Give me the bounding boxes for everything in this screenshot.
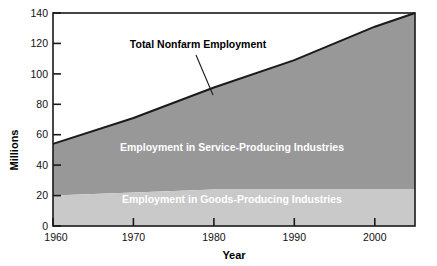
chart-figure: 0 20 40 60 80 100 120 140 1960 1970 1980… — [0, 0, 437, 266]
series-label-service-producing: Employment in Service-Producing Industri… — [120, 141, 344, 153]
y-tick-label: 40 — [36, 159, 48, 171]
x-tick-label: 1970 — [122, 231, 146, 243]
y-tick-label: 20 — [36, 189, 48, 201]
x-tick-label: 2000 — [363, 231, 387, 243]
x-tick-label: 1960 — [44, 231, 68, 243]
y-tick-label: 0 — [42, 220, 48, 232]
x-tick-label: 1990 — [283, 231, 307, 243]
x-tick-label: 1980 — [202, 231, 226, 243]
y-axis-title: Millions — [8, 130, 20, 171]
x-axis-title: Year — [222, 249, 246, 261]
y-tick-label: 120 — [30, 37, 48, 49]
y-tick-label: 100 — [30, 68, 48, 80]
employment-area-chart: 0 20 40 60 80 100 120 140 1960 1970 1980… — [0, 0, 437, 266]
y-tick-label: 80 — [36, 98, 48, 110]
y-tick-label: 60 — [36, 128, 48, 140]
series-label-goods-producing: Employment in Goods-Producing Industries — [122, 193, 342, 205]
y-axis-tick-labels: 0 20 40 60 80 100 120 140 — [30, 7, 48, 232]
x-axis-tick-labels: 1960 1970 1980 1990 2000 — [44, 231, 386, 243]
y-tick-label: 140 — [30, 7, 48, 19]
annotation-total-nonfarm-employment: Total Nonfarm Employment — [130, 38, 267, 50]
